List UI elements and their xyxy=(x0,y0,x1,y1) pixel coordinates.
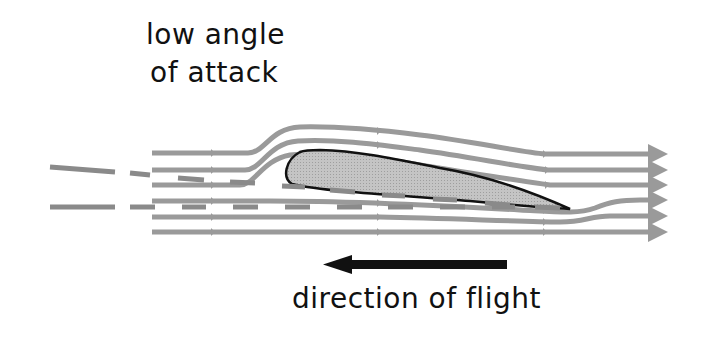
title-line-1: low angle xyxy=(146,18,285,51)
direction-caption: direction of flight xyxy=(292,282,541,315)
streamline-5 xyxy=(152,216,660,222)
title-line-2: of attack xyxy=(150,56,278,89)
direction-arrow xyxy=(323,255,507,274)
